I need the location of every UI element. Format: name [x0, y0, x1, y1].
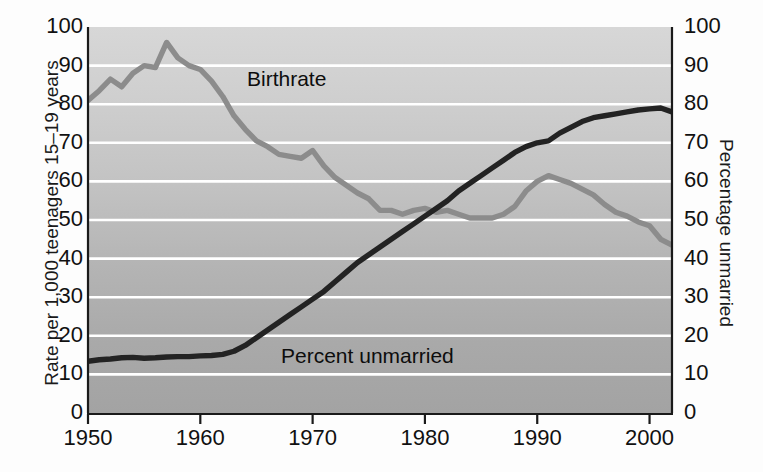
- x-tick-label: 1960: [160, 425, 240, 451]
- y-tick-label-left: 70: [23, 131, 83, 153]
- x-tick-label: 1970: [273, 425, 353, 451]
- x-tick-label: 1980: [385, 425, 465, 451]
- gridlines: [88, 66, 672, 375]
- chart-figure: Rate per 1,000 teenagers 15–19 years Per…: [0, 0, 763, 472]
- y-tick-label-right: 100: [684, 15, 744, 37]
- y-tick-label-right: 60: [684, 169, 744, 191]
- y-tick-label-right: 90: [684, 54, 744, 76]
- y-tick-label-left: 10: [23, 362, 83, 384]
- y-tick-label-right: 10: [684, 362, 744, 384]
- series-label-birthrate: Birthrate: [247, 67, 326, 91]
- x-tick-label: 1950: [48, 425, 128, 451]
- x-tick-label: 2000: [610, 425, 690, 451]
- y-tick-label-left: 60: [23, 169, 83, 191]
- data-series: [88, 42, 672, 361]
- x-tick-label: 1990: [497, 425, 577, 451]
- y-tick-label-left: 40: [23, 247, 83, 269]
- y-tick-label-right: 70: [684, 131, 744, 153]
- y-tick-label-left: 80: [23, 92, 83, 114]
- y-tick-label-left: 50: [23, 208, 83, 230]
- y-tick-label-right: 30: [684, 285, 744, 307]
- series-line-percent-unmarried: [88, 108, 672, 361]
- series-label-unmarried: Percent unmarried: [281, 344, 454, 368]
- y-tick-label-left: 100: [23, 15, 83, 37]
- y-tick-label-right: 40: [684, 247, 744, 269]
- y-tick-label-left: 0: [23, 401, 83, 423]
- y-tick-label-left: 20: [23, 324, 83, 346]
- y-tick-label-right: 50: [684, 208, 744, 230]
- y-tick-label-right: 0: [684, 401, 744, 423]
- y-tick-label-left: 90: [23, 54, 83, 76]
- x-tick-marks: [88, 414, 650, 424]
- y-tick-label-right: 20: [684, 324, 744, 346]
- y-tick-label-right: 80: [684, 92, 744, 114]
- y-tick-label-left: 30: [23, 285, 83, 307]
